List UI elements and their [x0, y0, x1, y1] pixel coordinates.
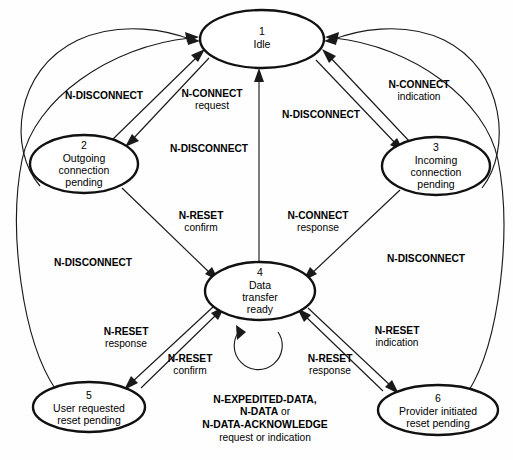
state-node-4[interactable]: 4 Data transfer ready — [205, 262, 315, 320]
edge-label-secondary: response — [297, 222, 339, 233]
edge-arrowhead — [236, 325, 246, 340]
state-label-line: ready — [247, 303, 274, 315]
state-number: 5 — [86, 389, 92, 401]
edge-label-primary: N-DISCONNECT — [65, 90, 144, 101]
edge-label-primary: N-RESET — [104, 326, 149, 337]
state-node-6[interactable]: 6 Provider initiated reset pending — [378, 385, 498, 435]
state-node-1[interactable]: 1 Idle — [200, 10, 324, 68]
edge-label-primary: N-CONNECT — [388, 79, 450, 90]
state-label-line: reset pending — [406, 417, 470, 429]
state-label-line: pending — [417, 178, 455, 190]
self-loop-line-2: N-DATA or — [240, 406, 291, 417]
state-diagram-canvas: 1 Idle 2 Outgoing connection pending 3 I… — [0, 0, 513, 460]
state-label-line: Provider initiated — [399, 405, 477, 417]
edge-label-4-to-6-reset-indication: N-RESET indication — [375, 325, 420, 348]
state-label-line: transfer — [242, 291, 278, 303]
edge-label-4-to-5-reset-response: N-RESET response — [104, 326, 149, 349]
edge-label-secondary: indication — [375, 337, 418, 348]
edge-label-primary: N-DISCONNECT — [54, 257, 133, 268]
edge-label-6-to-1-disconnect: N-DISCONNECT — [387, 253, 466, 264]
edge-3-to-4-connect-response — [303, 190, 400, 281]
edge-label-primary: N-DISCONNECT — [170, 143, 249, 154]
edge-label-6-to-4-reset-response: N-RESET response — [308, 353, 353, 376]
edge-labels-layer: N-DISCONNECT N-CONNECT request N-CONNECT… — [54, 79, 466, 376]
edge-4-to-6-reset-indication — [308, 308, 399, 394]
edge-label-3-to-1-connect-indication: N-CONNECT indication — [388, 79, 450, 102]
self-loop-line-1: N-EXPEDITED-DATA, — [213, 394, 317, 405]
nodes-layer: 1 Idle 2 Outgoing connection pending 3 I… — [30, 10, 498, 435]
edge-label-5-to-4-reset-confirm: N-RESET confirm — [168, 353, 213, 376]
edge-label-secondary: indication — [397, 91, 440, 102]
edge-6-to-4-reset-response — [297, 308, 383, 391]
edge-arrowhead — [254, 68, 264, 82]
self-loop-line-3: N-DATA-ACKNOWLEDGE — [202, 419, 328, 430]
state-node-3[interactable]: 3 Incoming connection pending — [382, 137, 490, 195]
state-label-line: Incoming — [415, 154, 458, 166]
edge-label-secondary: response — [105, 338, 147, 349]
edge-path — [141, 313, 218, 388]
edge-label-2-to-4-disconnect: N-DISCONNECT — [170, 143, 249, 154]
edge-label-primary: N-DISCONNECT — [387, 253, 466, 264]
state-number: 1 — [259, 25, 265, 37]
self-loop-label: N-EXPEDITED-DATA, N-DATA or N-DATA-ACKNO… — [202, 394, 328, 443]
edge-1-to-3-connect-indication — [316, 60, 404, 152]
state-node-5[interactable]: 5 User requested reset pending — [33, 382, 145, 432]
edge-label-4-to-1-disconnect: N-DISCONNECT — [282, 109, 361, 120]
edge-label-primary: N-CONNECT — [181, 88, 243, 99]
self-loop-line-2-bold: N-DATA — [240, 406, 279, 417]
state-number: 4 — [257, 266, 263, 278]
state-label-line: reset pending — [57, 414, 121, 426]
edge-label-1-to-2-connect-request: N-CONNECT request — [181, 88, 243, 111]
edge-label-primary: N-RESET — [168, 353, 213, 364]
edge-label-secondary: confirm — [184, 222, 217, 233]
state-label-line: Data — [249, 279, 271, 291]
state-label-line: connection — [411, 166, 462, 178]
edge-label-primary: N-RESET — [308, 353, 353, 364]
state-number: 6 — [435, 392, 441, 404]
self-loop-line-2-plain: or — [278, 406, 290, 417]
edge-label-primary: N-DISCONNECT — [282, 109, 361, 120]
state-label-line: Idle — [254, 38, 271, 50]
edge-path — [316, 60, 398, 146]
state-node-2[interactable]: 2 Outgoing connection pending — [30, 135, 138, 193]
edge-label-secondary: request — [195, 100, 229, 111]
edge-label-primary: N-CONNECT — [287, 210, 349, 221]
edge-label-2-to-1-disconnect: N-DISCONNECT — [65, 90, 144, 101]
state-number: 3 — [433, 141, 439, 153]
state-number: 2 — [81, 139, 87, 151]
edge-label-primary: N-RESET — [179, 210, 224, 221]
state-label-line: User requested — [53, 402, 125, 414]
edge-label-primary: N-RESET — [375, 325, 420, 336]
edge-2-to-4 — [122, 188, 219, 281]
edge-4-to-1-disconnect — [254, 68, 264, 262]
state-label-line: pending — [65, 176, 103, 188]
state-label-line: Outgoing — [63, 152, 106, 164]
edge-label-5-to-1-disconnect: N-DISCONNECT — [54, 257, 133, 268]
state-label-line: connection — [59, 164, 110, 176]
self-loop-line-4: request or indication — [219, 432, 311, 443]
edge-label-2-to-4-reset-confirm: N-RESET confirm — [179, 210, 224, 233]
edge-label-secondary: response — [309, 365, 351, 376]
edge-4-self-loop — [234, 325, 282, 370]
edge-label-3-to-4-connect-response: N-CONNECT response — [287, 210, 349, 233]
state-diagram-container: 1 Idle 2 Outgoing connection pending 3 I… — [0, 0, 513, 460]
edge-label-secondary: confirm — [173, 365, 206, 376]
